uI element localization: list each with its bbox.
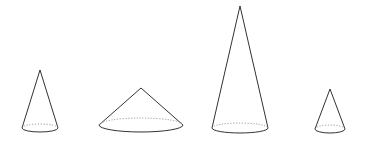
cone-base-front-arc (212, 128, 268, 133)
cone-2 (99, 88, 183, 132)
cone-base-back-arc (22, 124, 58, 128)
cone-base-front-arc (315, 129, 345, 133)
cone-4 (315, 89, 345, 133)
cone-base-back-arc (212, 123, 268, 128)
cone-slant-edges (22, 70, 58, 128)
cone-slant-edges (315, 89, 345, 129)
cone-3 (212, 6, 268, 133)
cone-base-front-arc (22, 128, 58, 132)
cone-slant-edges (212, 6, 268, 128)
cone-base-front-arc (99, 125, 183, 132)
cones-diagram (0, 0, 367, 152)
cone-slant-edges (99, 88, 183, 125)
cone-base-back-arc (315, 125, 345, 129)
cone-base-back-arc (99, 118, 183, 125)
cone-1 (22, 70, 58, 132)
